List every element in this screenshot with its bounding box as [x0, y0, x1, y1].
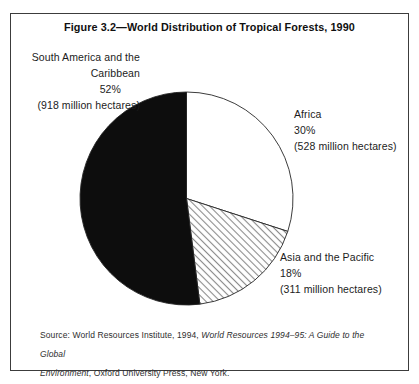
source-line: Environment, Oxford University Press, Ne…	[40, 364, 385, 383]
label-line: (311 million hectares)	[280, 281, 382, 297]
label-line: 18%	[280, 265, 382, 281]
label-south-america-caribbean: South America and the Caribbean 52% (918…	[12, 49, 140, 113]
source-text: Source: World Resources Institute, 1994,	[40, 330, 201, 340]
label-line: Caribbean	[12, 65, 140, 81]
label-line: 52%	[12, 81, 121, 97]
label-line: (528 million hectares)	[294, 138, 397, 154]
page: { "figure": { "title": "Figure 3.2—World…	[0, 0, 419, 384]
label-asia-pacific: Asia and the Pacific 18% (311 million he…	[280, 249, 382, 297]
label-line: Africa	[294, 106, 397, 122]
label-line: 30%	[294, 122, 397, 138]
label-line: South America and the	[12, 49, 140, 65]
label-line: (918 million hectares)	[12, 97, 140, 113]
pie-slice-south-america-and-the-caribbean	[80, 92, 200, 305]
label-line: Asia and the Pacific	[280, 249, 382, 265]
source-text-italic: Environment	[40, 368, 89, 378]
figure-title: Figure 3.2—World Distribution of Tropica…	[10, 21, 409, 33]
source-text: , Oxford University Press, New York.	[89, 368, 230, 378]
source-note: Source: World Resources Institute, 1994,…	[40, 326, 385, 383]
source-line: Source: World Resources Institute, 1994,…	[40, 326, 385, 364]
label-africa: Africa 30% (528 million hectares)	[294, 106, 397, 154]
